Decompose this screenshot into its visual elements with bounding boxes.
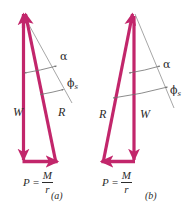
label-vector-r-a: R xyxy=(58,106,65,118)
alpha-symbol-b: α xyxy=(163,58,170,71)
label-vector-r-b: R xyxy=(99,108,106,120)
label-p-lead-a: P = xyxy=(23,177,40,188)
vector-r-a xyxy=(26,14,57,163)
label-angle-phis-b: ϕs xyxy=(170,85,181,98)
label-vector-p-b: P = M r xyxy=(102,170,132,195)
phi-subscript-b: s xyxy=(178,90,182,98)
phi-symbol-b: ϕ xyxy=(170,84,178,97)
panel-b xyxy=(102,14,175,163)
phi-symbol-a: ϕ xyxy=(67,77,75,90)
label-vector-w-b: W xyxy=(140,108,150,120)
fraction-denominator-b: r xyxy=(123,184,129,195)
alpha-symbol-a: α xyxy=(60,50,67,63)
arc-alpha-a xyxy=(25,66,57,73)
arc-phis-a xyxy=(41,90,64,95)
fraction-m-over-r-b: M r xyxy=(121,170,132,195)
label-angle-phis-a: ϕs xyxy=(67,78,78,91)
fraction-numerator-b: M xyxy=(121,170,132,181)
label-p-lead-b: P = xyxy=(102,177,119,188)
vector-r-b xyxy=(103,14,133,163)
label-angle-alpha-b: α xyxy=(163,59,170,70)
label-vector-p-a: P = M r xyxy=(23,170,53,195)
label-vector-w-a: W xyxy=(13,106,23,118)
arc-phis-b xyxy=(113,87,168,98)
phi-subscript-a: s xyxy=(75,83,79,91)
caption-panel-a: (a) xyxy=(51,191,63,201)
panel-a xyxy=(23,14,73,163)
fraction-denominator-a: r xyxy=(44,184,50,195)
fraction-numerator-a: M xyxy=(42,170,53,181)
caption-panel-b: (b) xyxy=(145,191,157,201)
label-angle-alpha-a: α xyxy=(60,51,67,62)
